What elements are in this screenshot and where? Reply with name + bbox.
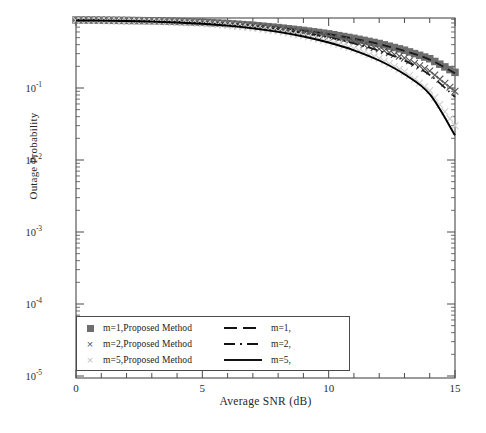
marker-x [447,84,454,91]
legend-square-marker-icon [77,323,103,333]
x-tick-label-2: 10 [314,382,344,394]
square-icon [87,325,94,332]
x-icon: × [87,339,93,350]
legend-line-sample-dash-dot [221,337,265,351]
y-tick-mantissa: 10 [25,371,36,382]
legend-line-sample-dashed [221,321,265,335]
marker-x [436,76,443,83]
x-tick-label-1: 5 [187,382,217,394]
legend-label-proposed-2: m=5,Proposed Method [103,355,221,365]
legend-label-analytic-2: m=5, [265,355,311,365]
legend-row-2: ×m=5,Proposed Methodm=5, [77,352,349,368]
x-tick-label-0: 0 [61,382,91,394]
x-icon: × [87,355,93,366]
series-5 [76,20,455,135]
x-axis-title: Average SNR (dB) [76,395,455,407]
legend-row-0: m=1,Proposed Methodm=1, [77,320,349,336]
y-tick-label-4: 10-5 [8,368,42,382]
figure-outage-probability-chart: 10-110-210-310-410-5 051015 Outage Proba… [0,0,486,433]
legend-x-marker-icon: × [77,355,103,366]
marker-x [431,72,438,79]
legend-label-proposed-1: m=2,Proposed Method [103,339,221,349]
y-tick-mantissa: 10 [25,299,36,310]
legend-x-marker-icon: × [77,339,103,350]
legend-line-sample-solid [221,353,265,367]
legend-row-1: ×m=2,Proposed Methodm=2, [77,336,349,352]
y-tick-exponent: -5 [36,368,42,377]
y-tick-exponent: -4 [36,296,42,305]
legend-label-analytic-0: m=1, [265,323,311,333]
chart-legend: m=1,Proposed Methodm=1,×m=2,Proposed Met… [76,316,350,371]
legend-label-analytic-1: m=2, [265,339,311,349]
series-4 [73,17,459,129]
data-series-group [72,16,459,135]
y-axis-title: Outage Probability [27,71,39,241]
y-tick-label-3: 10-4 [8,296,42,310]
curve-solid [76,20,455,135]
legend-label-proposed-0: m=1,Proposed Method [103,323,221,333]
x-tick-label-3: 15 [440,382,470,394]
